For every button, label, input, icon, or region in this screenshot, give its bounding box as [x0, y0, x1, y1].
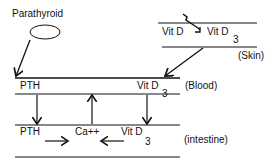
blood-pth-label: PTH [20, 81, 40, 91]
skin-vitd-label: Vit D [162, 27, 184, 37]
skin-vitd3-subscript: 3 [233, 35, 239, 45]
intestine-calcium-label: Ca++ [75, 127, 99, 137]
uv-light-icon [183, 14, 200, 30]
skin-vitd3-label: Vit D [207, 27, 229, 37]
blood-vitd3-subscript: 3 [162, 89, 168, 99]
parathyroid-label: Parathyroid [12, 9, 63, 19]
vitd3-transport-arrow [165, 48, 203, 76]
intestine-vitd3-label: Vit D [121, 127, 143, 137]
parathyroid-gland [30, 25, 60, 39]
blood-label: (Blood) [185, 81, 217, 91]
intestine-vitd3-subscript: 3 [145, 137, 151, 147]
intestine-pth-label: PTH [20, 127, 40, 137]
skin-label: (Skin) [238, 51, 264, 61]
intestine-label: (intestine) [184, 135, 228, 145]
blood-vitd3-label: Vit D [137, 81, 159, 91]
pth-secretion-arrow [16, 40, 30, 76]
